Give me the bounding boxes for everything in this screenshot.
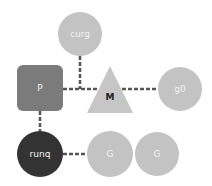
p-label: P	[37, 83, 43, 93]
node-runq: runq	[17, 131, 63, 177]
node-g0: g0	[158, 67, 202, 111]
g0-label: g0	[174, 84, 186, 94]
gmp-diagram: curg P M g0 runq G G	[0, 0, 212, 186]
node-g1: G	[87, 131, 133, 177]
g2-label: G	[154, 149, 161, 159]
node-p: P	[17, 65, 63, 111]
m-label: M	[106, 92, 115, 102]
node-g2: G	[135, 132, 179, 176]
node-curg: curg	[58, 12, 102, 56]
runq-label: runq	[30, 149, 51, 159]
g1-label: G	[107, 149, 114, 159]
curg-label: curg	[70, 29, 90, 39]
